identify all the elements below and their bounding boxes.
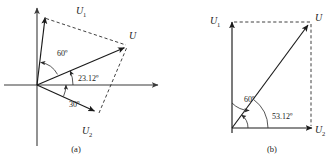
panel-a-angle-label-30: 30º [69, 100, 80, 109]
panel-a-angle-label-60: 60º [57, 49, 68, 58]
panel-a-arc-60 [41, 62, 58, 74]
panel-b-arc-5312 [254, 100, 268, 129]
panel-a-label-u1-subscript: 1 [83, 11, 86, 18]
panel-a-arc-2312 [70, 71, 73, 85]
panel-a-caption: (a) [71, 144, 81, 154]
panel-b: U 1 U U 2 60º 53.12º (b) [210, 12, 325, 154]
panel-a-vector-u1 [37, 18, 45, 86]
panel-a: U 1 U U 2 60º 23.12º 30º (a) [4, 5, 158, 154]
figure-canvas: U 1 U U 2 60º 23.12º 30º (a) [0, 0, 329, 156]
panel-b-label-u1-subscript: 1 [217, 21, 220, 28]
panel-a-construction-line-1 [46, 19, 126, 46]
panel-a-label-u2-subscript: 2 [89, 131, 92, 138]
panel-b-arc-inner [242, 115, 249, 128]
panel-b-angle-label-5312: 53.12º [272, 112, 293, 121]
panel-b-caption: (b) [267, 144, 277, 154]
phasor-diagram-figure: U 1 U U 2 60º 23.12º 30º (a) [0, 0, 329, 156]
panel-b-angle-label-60: 60º [244, 95, 255, 104]
panel-a-arc-30 [64, 85, 67, 96]
panel-b-label-u: U [315, 12, 323, 23]
panel-a-label-u: U [129, 30, 137, 41]
panel-b-arc-60 [232, 103, 249, 111]
panel-a-angle-label-2312: 23.12º [78, 74, 99, 83]
panel-b-vector-u [232, 25, 308, 128]
panel-b-label-u-axis-subscript: 2 [322, 130, 325, 137]
